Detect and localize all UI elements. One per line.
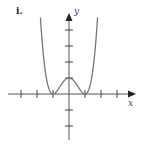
y-axis bbox=[65, 13, 73, 140]
x-arrow-icon bbox=[128, 91, 136, 98]
graph bbox=[0, 0, 141, 147]
y-arrow-icon bbox=[66, 13, 73, 21]
x-axis bbox=[8, 90, 136, 98]
